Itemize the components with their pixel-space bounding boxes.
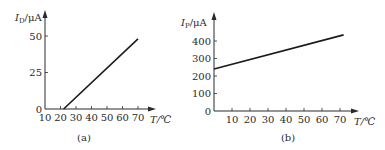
x-axis-arrow-icon	[351, 109, 359, 114]
panel-a: 1020304050607002550 ID/μA T/℃ (a)	[14, 10, 171, 143]
x-tick-label: 40	[85, 112, 98, 123]
y-tick-label: 0	[205, 106, 211, 117]
x-tick-label: 50	[101, 112, 114, 123]
x-tick-label: 20	[244, 114, 257, 125]
panel-a-caption: (a)	[77, 132, 91, 143]
y-tick-label: 400	[192, 36, 211, 47]
x-axis-arrow-icon	[148, 107, 156, 112]
panel-b-axes	[212, 12, 360, 114]
y-tick-label: 50	[29, 31, 42, 42]
panel-a-ylabel: ID/μA	[14, 12, 42, 25]
panel-b-xlabel: T/℃	[354, 116, 375, 127]
x-tick-label: 20	[54, 112, 67, 123]
data-line	[64, 39, 138, 109]
x-tick-label: 10	[226, 114, 239, 125]
x-tick-label: 50	[298, 114, 311, 125]
x-tick-label: 30	[262, 114, 275, 125]
x-tick-label: 30	[70, 112, 83, 123]
x-tick-label: 40	[280, 114, 293, 125]
panel-b-ylabel: IP/μA	[180, 17, 208, 30]
x-tick-label: 70	[132, 112, 145, 123]
data-line	[214, 35, 344, 69]
y-tick-label: 300	[192, 53, 211, 64]
panel-b: 102030405060700100200300400 IP/μA T/℃ (b…	[180, 12, 375, 143]
y-axis-arrow-icon	[43, 10, 48, 18]
y-tick-label: 100	[192, 88, 211, 99]
y-tick-label: 0	[36, 104, 42, 115]
panel-a-axes	[43, 10, 157, 112]
chart-figure: 1020304050607002550 ID/μA T/℃ (a) 102030…	[0, 0, 385, 150]
x-tick-label: 70	[334, 114, 347, 125]
panel-b-ticks: 102030405060700100200300400	[192, 36, 346, 126]
x-tick-label: 60	[316, 114, 329, 125]
panel-b-caption: (b)	[281, 132, 295, 143]
y-tick-label: 25	[29, 67, 42, 78]
panel-a-series	[64, 39, 138, 109]
panel-b-series	[214, 35, 344, 69]
y-axis-arrow-icon	[212, 12, 217, 20]
panel-a-xlabel: T/℃	[150, 114, 171, 125]
y-tick-label: 200	[192, 71, 211, 82]
x-tick-label: 60	[116, 112, 129, 123]
